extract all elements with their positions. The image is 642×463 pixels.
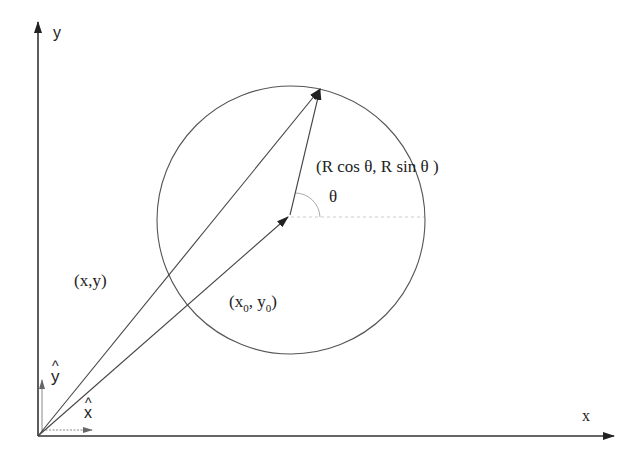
y-axis-label: y bbox=[53, 25, 61, 41]
center-label: (x0, y0) bbox=[229, 293, 277, 310]
y-hat-label: ^ y bbox=[51, 368, 60, 385]
x-hat-label: ^ x bbox=[84, 405, 92, 421]
position-label: (x,y) bbox=[74, 272, 107, 289]
center-label-y: , y bbox=[249, 292, 266, 311]
hat-glyph: ^ bbox=[52, 359, 59, 373]
center-label-sub-y: 0 bbox=[266, 302, 272, 314]
angle-label: θ bbox=[329, 188, 337, 205]
circle bbox=[157, 86, 425, 354]
angle-arc bbox=[295, 193, 320, 217]
center-position-vector bbox=[38, 217, 288, 436]
x-axis-label: x bbox=[582, 408, 590, 424]
point-position-vector bbox=[38, 89, 320, 436]
diagram-canvas bbox=[0, 0, 642, 463]
radius-vector-label: (R cos θ, R sin θ ) bbox=[316, 158, 439, 175]
center-label-close: ) bbox=[271, 292, 277, 311]
center-label-sub-x: 0 bbox=[243, 302, 249, 314]
hat-glyph: ^ bbox=[85, 396, 92, 410]
center-label-x: (x bbox=[229, 292, 243, 311]
